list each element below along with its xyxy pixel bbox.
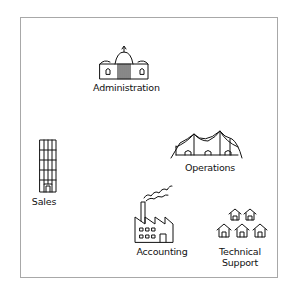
skyscraper-icon bbox=[40, 140, 56, 192]
capitol-building-icon bbox=[100, 46, 148, 79]
node-label-technical-support-line2: Support bbox=[218, 257, 262, 268]
node-label-administration: Administration bbox=[93, 82, 155, 93]
node-label-accounting: Accounting bbox=[134, 246, 190, 257]
node-label-sales: Sales bbox=[30, 196, 58, 207]
houses-cluster-icon bbox=[217, 209, 267, 237]
node-label-technical-support-line1: Technical bbox=[218, 246, 262, 257]
circus-tent-icon bbox=[171, 131, 242, 158]
factory-icon bbox=[135, 186, 173, 242]
node-label-operations: Operations bbox=[182, 162, 238, 173]
